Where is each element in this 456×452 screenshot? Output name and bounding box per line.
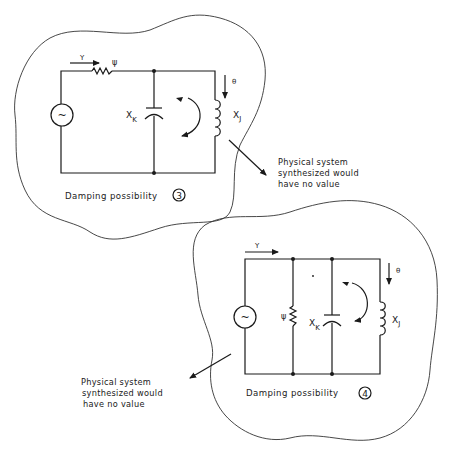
inductor-label: XJ bbox=[233, 110, 241, 123]
svg-text:4: 4 bbox=[362, 389, 368, 399]
junction-dot bbox=[330, 257, 334, 261]
diagram-damping-3: ~ ψ Y XK XJ θ Physical system synthesize… bbox=[15, 15, 359, 239]
diagram-canvas: ~ ψ Y XK XJ θ Physical system synthesize… bbox=[0, 0, 456, 452]
inductor-icon bbox=[215, 100, 220, 136]
caption-number-badge: 4 bbox=[359, 387, 371, 399]
circuit-wires bbox=[61, 71, 215, 173]
svg-text:Physical system: Physical system bbox=[278, 157, 348, 167]
resistor-label: ψ bbox=[281, 312, 286, 321]
resistor-icon bbox=[92, 68, 112, 74]
junction-dot bbox=[291, 372, 295, 376]
circulation-arrow bbox=[352, 283, 367, 321]
junction-dot bbox=[152, 171, 156, 175]
diagram-caption: Damping possibility bbox=[246, 388, 338, 398]
flow-out-label: θ bbox=[232, 78, 236, 86]
capacitor-label: XK bbox=[309, 318, 320, 332]
svg-text:have no value: have no value bbox=[83, 399, 145, 409]
diagram-caption: Damping possibility bbox=[65, 191, 157, 201]
flow-out-label: θ bbox=[396, 267, 400, 275]
svg-text:3: 3 bbox=[176, 191, 182, 201]
junction-dot bbox=[152, 69, 156, 73]
svg-text:Physical system: Physical system bbox=[81, 377, 151, 387]
note-text: Physical system synthesized would have n… bbox=[278, 157, 359, 189]
flow-in-label: Y bbox=[254, 242, 260, 250]
circulation-arrowhead bbox=[176, 97, 183, 102]
svg-text:synthesized would: synthesized would bbox=[82, 388, 163, 398]
svg-text:~: ~ bbox=[240, 311, 249, 324]
diagram-damping-4: ~ ψ Y XK XJ θ Physical system synthesize… bbox=[81, 201, 437, 441]
ac-source-icon: ~ bbox=[51, 104, 73, 126]
svg-text:have no value: have no value bbox=[278, 179, 340, 189]
capacitor-label: XK bbox=[126, 110, 137, 124]
junction-dot bbox=[291, 257, 295, 261]
resistor-label: ψ bbox=[112, 58, 117, 67]
svg-text:~: ~ bbox=[57, 109, 66, 122]
region-outline bbox=[193, 201, 437, 441]
resistor-icon bbox=[290, 306, 296, 326]
inductor-label: XJ bbox=[392, 315, 400, 328]
caption-number-badge: 3 bbox=[173, 189, 185, 201]
region-outline bbox=[15, 15, 266, 239]
circulation-arrow bbox=[182, 98, 200, 136]
circulation-arrowhead bbox=[342, 282, 349, 286]
svg-text:synthesized would: synthesized would bbox=[278, 168, 359, 178]
stray-dot bbox=[312, 275, 314, 277]
ac-source-icon: ~ bbox=[234, 306, 256, 328]
flow-in-label: Y bbox=[79, 54, 85, 62]
note-text: Physical system synthesized would have n… bbox=[81, 377, 163, 409]
inductor-icon bbox=[380, 302, 385, 335]
junction-dot bbox=[330, 372, 334, 376]
